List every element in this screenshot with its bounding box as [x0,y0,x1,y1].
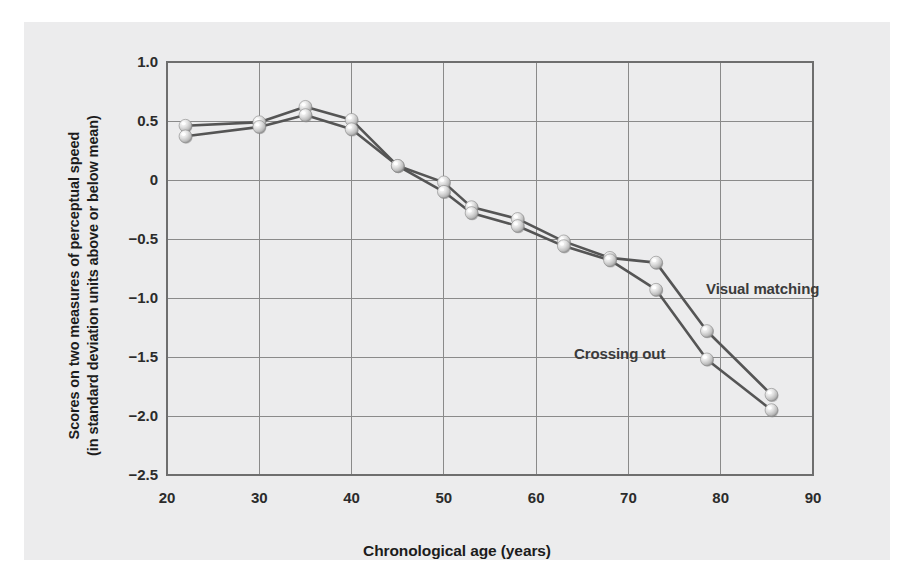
x-tick-label: 40 [327,489,377,506]
x-tick-label: 60 [511,489,561,506]
y-tick-label: −1.5 [128,348,158,365]
y-tick-label: 0.5 [137,112,158,129]
x-tick-label: 90 [788,489,838,506]
figure-container: 1.00.50−0.5−1.0−1.5−2.0−2.5 203040506070… [0,0,914,584]
x-tick-label: 70 [603,489,653,506]
y-axis-title-line2: (in standard deviation units above or be… [84,76,103,496]
x-tick-label: 50 [419,489,469,506]
y-tick-label: 1.0 [137,53,158,70]
y-axis-title-line1: Scores on two measures of perceptual spe… [65,76,84,496]
y-axis-title: Scores on two measures of perceptual spe… [65,76,102,496]
y-tick-label: −2.5 [128,466,158,483]
x-tick-label: 20 [142,489,192,506]
series-label-crossing-out: Crossing out [574,345,665,362]
x-tick-label: 80 [696,489,746,506]
y-tick-label: −1.0 [128,289,158,306]
series-label-visual-matching: Visual matching [706,280,819,297]
y-tick-label: −2.0 [128,407,158,424]
x-axis-title: Chronological age (years) [24,542,890,560]
y-tick-label: −0.5 [128,230,158,247]
chart-panel: 1.00.50−0.5−1.0−1.5−2.0−2.5 203040506070… [24,22,890,560]
y-tick-label: 0 [150,171,158,188]
x-tick-label: 30 [234,489,284,506]
